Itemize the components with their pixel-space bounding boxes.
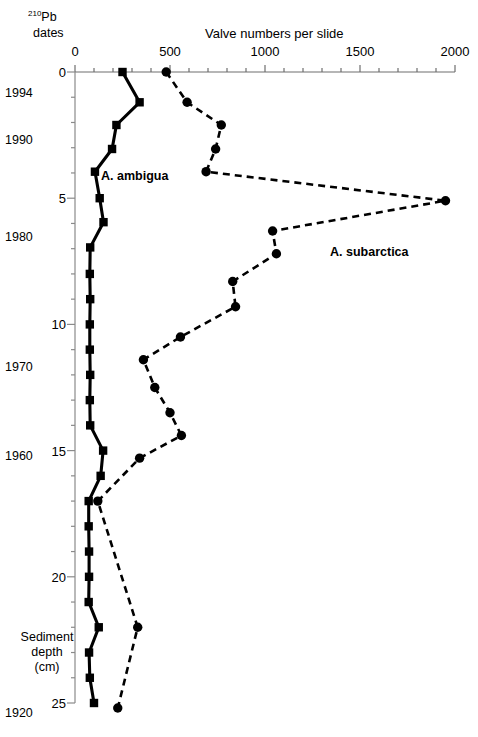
data-point-a-ambigua [99,218,107,226]
data-point-a-subarctica [231,302,240,311]
data-point-a-ambigua [86,421,94,429]
data-point-a-ambigua [85,648,93,656]
data-point-a-subarctica [201,167,210,176]
data-point-a-ambigua [86,295,94,303]
data-point-a-ambigua [99,446,107,454]
data-point-a-subarctica [139,355,148,364]
series-line-a-subarctica [98,72,446,708]
data-point-a-ambigua [86,371,94,379]
data-point-a-ambigua [84,598,92,606]
data-point-a-ambigua [86,243,94,251]
plot-canvas [0,0,478,737]
data-point-a-ambigua [96,194,104,202]
data-point-a-ambigua [86,270,94,278]
data-point-a-ambigua [91,167,99,175]
data-point-a-ambigua [86,396,94,404]
data-point-a-subarctica [150,383,159,392]
data-point-a-subarctica [182,98,191,107]
data-point-a-subarctica [162,67,171,76]
data-point-a-subarctica [211,144,220,153]
data-point-a-ambigua [135,98,143,106]
data-point-a-ambigua [108,145,116,153]
data-point-a-ambigua [86,320,94,328]
data-point-a-ambigua [85,573,93,581]
data-point-a-subarctica [176,332,185,341]
diatom-depth-profile-figure: 210Pb dates Valve numbers per slide Sedi… [0,0,478,737]
data-point-a-subarctica [217,120,226,129]
data-point-a-subarctica [441,196,450,205]
data-point-a-subarctica [135,453,144,462]
data-point-a-subarctica [177,431,186,440]
data-point-a-subarctica [133,623,142,632]
data-point-a-ambigua [96,472,104,480]
data-point-a-ambigua [84,497,92,505]
data-point-a-ambigua [90,699,98,707]
data-point-a-ambigua [95,623,103,631]
data-point-a-subarctica [165,408,174,417]
data-point-a-ambigua [112,121,120,129]
data-point-a-ambigua [85,547,93,555]
data-point-a-ambigua [84,522,92,530]
data-point-a-ambigua [118,68,126,76]
data-point-a-subarctica [268,226,277,235]
data-point-a-subarctica [93,496,102,505]
data-point-a-subarctica [228,277,237,286]
data-point-a-ambigua [86,674,94,682]
series-line-a-ambigua [89,72,140,703]
data-point-a-subarctica [272,249,281,258]
data-point-a-subarctica [113,703,122,712]
data-point-a-ambigua [86,345,94,353]
